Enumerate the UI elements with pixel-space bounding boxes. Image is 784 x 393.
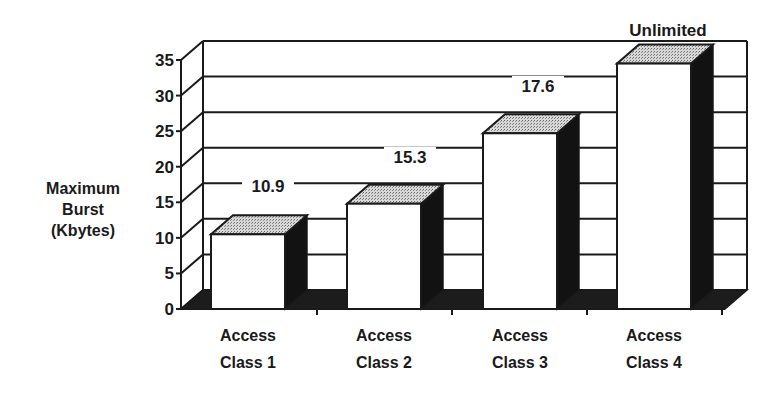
y-tick-label: 10 [155,229,174,248]
y-tick-label: 0 [165,300,174,319]
side-gridline [181,148,203,167]
y-tick-label: 5 [165,264,174,283]
x-tick-label: Access [492,327,548,344]
bar-chart: 05101520253035 AccessClass 1AccessClass … [0,0,784,393]
x-tick-label: Class 1 [220,354,276,371]
x-tick-label: Class 4 [626,354,682,371]
side-gridline [181,183,203,202]
x-tick-label: Access [220,327,276,344]
x-tick-label: Class 2 [356,354,412,371]
x-tick-label: Class 3 [492,354,548,371]
bar [211,215,307,309]
x-tick-label: Access [626,327,682,344]
y-tick-label: 20 [155,158,174,177]
bar [347,185,443,309]
y-tick-label: 35 [155,51,174,70]
bar [483,114,579,309]
side-gridline [181,77,203,96]
side-gridline [181,112,203,131]
bar [617,45,713,309]
y-tick-label: 25 [155,122,174,141]
bar-annotation: 15.3 [393,148,426,167]
side-gridline [181,254,203,273]
x-axis-labels: AccessClass 1AccessClass 2AccessClass 3A… [220,327,682,371]
side-gridline [181,219,203,238]
bar-annotation: 17.6 [521,77,554,96]
bar-annotation: Unlimited [629,21,706,40]
y-tick-label: 30 [155,87,174,106]
side-gridline [181,41,203,60]
x-tick-label: Access [356,327,412,344]
y-tick-label: 15 [155,193,174,212]
bar-annotation: 10.9 [251,177,284,196]
